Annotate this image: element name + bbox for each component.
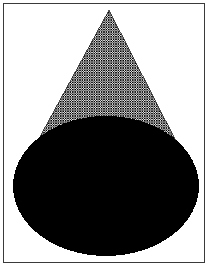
cone-illustration: Cone Line-art illustration of a right ci…: [0, 0, 211, 268]
figure-container: Cone Line-art illustration of a right ci…: [0, 0, 211, 268]
cone-base-ellipse: [13, 116, 199, 256]
